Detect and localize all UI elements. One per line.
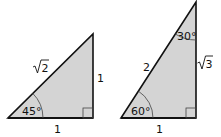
hypotenuse-label-sqrt2: 2 [33,60,49,75]
triangle-45-45-90: 45° 2 1 1 [8,34,104,136]
angle-label-45: 45° [22,105,42,118]
vertical-leg-label: 1 [97,72,104,85]
svg-text:2: 2 [42,62,49,75]
horizontal-leg-label: 1 [54,123,61,136]
special-triangles-diagram: 45° 2 1 1 60° 30° 2 3 1 [0,0,221,137]
svg-text:3: 3 [206,58,213,71]
hypotenuse-label: 2 [143,61,150,74]
vertical-leg-label-sqrt3: 3 [198,56,214,71]
angle-label-30: 30° [177,30,197,43]
angle-label-60: 60° [131,105,151,118]
triangle-30-60-90: 60° 30° 2 3 1 [121,2,213,136]
horizontal-leg-label: 1 [156,123,163,136]
